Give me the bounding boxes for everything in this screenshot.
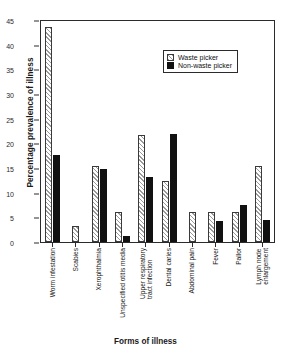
bar-waste-picker — [138, 135, 145, 242]
legend-item-waste-picker: Waste picker — [167, 54, 232, 61]
x-axis-tickmark-cell — [157, 243, 180, 247]
x-axis-category-label: Dental caries — [165, 248, 172, 286]
bar-waste-picker — [232, 212, 239, 242]
y-axis-tickmark — [34, 144, 39, 145]
y-axis-tickmark — [34, 218, 39, 219]
x-axis-tickmark-cell — [134, 243, 157, 247]
y-axis-tickmark — [34, 193, 39, 194]
bar-waste-picker — [115, 212, 122, 242]
bar-waste-picker — [189, 212, 196, 242]
x-axis-tickmark — [52, 243, 53, 247]
x-axis-labels: Worm infestationScabiesXerophthalmiaUnsp… — [41, 248, 274, 333]
y-axis-tick-label: 10 — [0, 190, 14, 197]
x-axis-tickmark — [262, 243, 263, 247]
bar-non-waste-picker — [240, 205, 247, 242]
bar-non-waste-picker — [146, 177, 153, 242]
x-axis-tickmark-cell — [181, 243, 204, 247]
x-axis-category-label: Scabies — [72, 248, 79, 271]
x-axis-tickmarks — [41, 243, 274, 247]
bar-waste-picker — [92, 166, 99, 242]
x-axis-tickmark — [192, 243, 193, 247]
x-axis-tickmark — [99, 243, 100, 247]
x-axis-label-cell: Fever — [204, 248, 227, 333]
bar-group — [64, 21, 87, 242]
x-axis-tickmark — [215, 243, 216, 247]
x-axis-tickmark-cell — [204, 243, 227, 247]
y-axis-tickmark — [34, 243, 39, 244]
x-axis-tickmark-cell — [64, 243, 87, 247]
bar-non-waste-picker — [123, 236, 130, 242]
x-axis-tickmark — [122, 243, 123, 247]
x-axis-label-cell: Upper respiratorytract infection — [134, 248, 157, 333]
x-axis-tickmark — [239, 243, 240, 247]
y-axis-tickmark — [34, 70, 39, 71]
legend-item-non-waste-picker: Non-waste picker — [167, 62, 232, 69]
y-axis-tickmark — [34, 169, 39, 170]
bar-non-waste-picker — [263, 220, 270, 242]
y-axis-tick-label: 20 — [0, 141, 14, 148]
chart-legend: Waste picker Non-waste picker — [163, 50, 238, 73]
x-axis-label-cell: Scabies — [64, 248, 87, 333]
x-axis-category-label: Fever — [212, 248, 219, 265]
y-axis-tick-label: 35 — [0, 67, 14, 74]
y-axis-title: Percentage prevalence of illness — [26, 33, 35, 213]
y-axis-tickmark — [34, 119, 39, 120]
bar-non-waste-picker — [216, 221, 223, 242]
y-axis-tick-label: 45 — [0, 18, 14, 25]
x-axis-label-cell: Unspecified otitis media — [111, 248, 134, 333]
x-axis-tickmark — [145, 243, 146, 247]
bar-group — [134, 21, 157, 242]
y-axis-tick-label: 30 — [0, 92, 14, 99]
y-axis-tick-label: 15 — [0, 166, 14, 173]
bar-waste-picker — [162, 181, 169, 242]
bar-non-waste-picker — [100, 169, 107, 242]
x-axis-label-cell: Lymph nodeenlargement — [251, 248, 274, 333]
chart-figure: Percentage prevalence of illness 0510152… — [0, 0, 291, 355]
x-axis-category-label: Unspecified otitis media — [119, 248, 126, 318]
legend-label-non-waste-picker: Non-waste picker — [178, 62, 232, 69]
legend-swatch-non-waste-picker — [167, 62, 174, 69]
bar-waste-picker — [72, 226, 79, 242]
x-axis-category-label: Upper respiratorytract infection — [138, 248, 153, 299]
bar-non-waste-picker — [170, 134, 177, 242]
y-axis-tick-label: 0 — [0, 240, 14, 247]
x-axis-tickmark-cell — [88, 243, 111, 247]
bar-waste-picker — [45, 27, 52, 242]
x-axis-label-cell: Worm infestation — [41, 248, 64, 333]
x-axis-tickmark-cell — [227, 243, 250, 247]
y-axis-tickmark — [34, 21, 39, 22]
x-axis-category-label: Pallor — [235, 248, 242, 265]
x-axis-label-cell: Abdominal pain — [181, 248, 204, 333]
y-axis-tickmark — [34, 95, 39, 96]
bar-waste-picker — [255, 166, 262, 242]
y-axis-tick-label: 25 — [0, 116, 14, 123]
x-axis-tickmark — [169, 243, 170, 247]
bar-group — [251, 21, 274, 242]
x-axis-category-label: Xerophthalmia — [96, 248, 103, 291]
bar-non-waste-picker — [53, 155, 60, 242]
x-axis-label-cell: Xerophthalmia — [88, 248, 111, 333]
x-axis-title: Forms of illness — [0, 337, 291, 346]
x-axis-tickmark-cell — [41, 243, 64, 247]
x-axis-tickmark-cell — [111, 243, 134, 247]
bar-series-container — [41, 21, 274, 242]
y-axis-tick-label: 5 — [0, 215, 14, 222]
x-axis-category-label: Worm infestation — [49, 248, 56, 297]
legend-swatch-waste-picker — [167, 54, 174, 61]
y-axis-tick-label: 40 — [0, 42, 14, 49]
bar-group — [111, 21, 134, 242]
x-axis-category-label: Abdominal pain — [189, 248, 196, 293]
x-axis-tickmark — [75, 243, 76, 247]
x-axis-tickmark-cell — [251, 243, 274, 247]
bar-group — [41, 21, 64, 242]
x-axis-label-cell: Pallor — [227, 248, 250, 333]
legend-label-waste-picker: Waste picker — [178, 54, 218, 61]
bar-waste-picker — [208, 212, 215, 242]
bar-group — [88, 21, 111, 242]
x-axis-label-cell: Dental caries — [157, 248, 180, 333]
y-axis-tickmark — [34, 45, 39, 46]
x-axis-category-label: Lymph nodeenlargement — [255, 248, 270, 285]
